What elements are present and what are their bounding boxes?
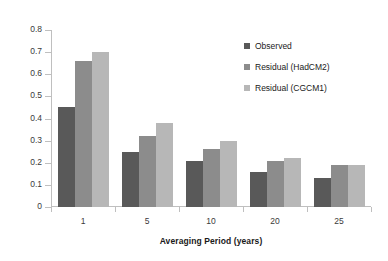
x-axis-title: Averaging Period (years)	[51, 236, 371, 246]
bar	[139, 136, 156, 207]
bar	[267, 161, 284, 207]
bar-group: 5	[115, 30, 179, 207]
x-axis-category-label: 1	[51, 216, 115, 226]
x-axis-tick	[307, 207, 308, 212]
y-axis-tick-label: 0.4	[30, 113, 42, 124]
x-axis-category-label: 5	[115, 216, 179, 226]
y-axis-tick-label: 0.8	[30, 24, 42, 35]
legend-swatch-icon	[244, 85, 250, 91]
x-axis-category-label: 10	[179, 216, 243, 226]
bar-group: 1	[51, 30, 115, 207]
bar	[75, 61, 92, 207]
y-axis-tick-label: 0.6	[30, 68, 42, 79]
x-axis-tick	[51, 207, 52, 212]
legend-item[interactable]: Observed	[244, 38, 330, 54]
legend-label: Residual (HadCM2)	[255, 62, 330, 72]
bar	[314, 178, 331, 207]
y-axis-tick-label: 0.7	[30, 46, 42, 57]
legend-item[interactable]: Residual (CGCM1)	[244, 80, 330, 96]
bar	[122, 152, 139, 207]
x-axis-tick	[243, 207, 244, 212]
y-axis-tick-label: 0.1	[30, 179, 42, 190]
bar	[220, 141, 237, 207]
x-axis-category-label: 25	[307, 216, 371, 226]
legend-swatch-icon	[244, 43, 250, 49]
bar-group: 10	[179, 30, 243, 207]
x-axis-tick	[179, 207, 180, 212]
x-axis-category-label: 20	[243, 216, 307, 226]
legend-label: Observed	[255, 41, 292, 51]
legend-swatch-icon	[244, 64, 250, 70]
chart-legend: ObservedResidual (HadCM2)Residual (CGCM1…	[244, 38, 330, 101]
bar	[156, 123, 173, 207]
bar	[284, 158, 301, 207]
legend-label: Residual (CGCM1)	[255, 83, 327, 93]
y-axis-tick-label: 0.2	[30, 157, 42, 168]
bar	[58, 107, 75, 207]
x-axis-tick	[115, 207, 116, 212]
bar	[92, 52, 109, 207]
y-axis-tick-label: 0	[37, 201, 42, 212]
bar	[348, 165, 365, 207]
legend-item[interactable]: Residual (HadCM2)	[244, 59, 330, 75]
bar	[250, 172, 267, 207]
bar	[186, 161, 203, 207]
bar	[203, 149, 220, 207]
bar	[331, 165, 348, 207]
y-axis-tick-label: 0.3	[30, 135, 42, 146]
y-axis-tick-label: 0.5	[30, 90, 42, 101]
bar-chart: Standard Deviation 0.80.70.60.50.40.30.2…	[0, 0, 388, 261]
x-axis-tick	[371, 207, 372, 212]
